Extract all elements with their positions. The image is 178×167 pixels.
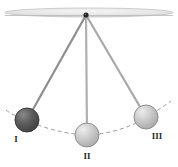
bob-II-label: II xyxy=(83,151,91,161)
string-position-I xyxy=(27,15,86,120)
bob-I xyxy=(15,108,39,132)
string-position-III xyxy=(86,15,146,117)
pivot-point xyxy=(83,12,88,17)
pendulum-figure: IIIIII xyxy=(0,0,178,167)
pendulum-diagram-canvas: IIIIII xyxy=(0,0,178,167)
bob-III xyxy=(134,105,158,129)
bob-I-label: I xyxy=(14,134,18,144)
pendulum-strings-group xyxy=(27,15,146,135)
pivot-point-highlight xyxy=(84,13,86,15)
string-position-II xyxy=(86,15,87,135)
bob-II xyxy=(75,123,99,147)
bob-III-label: III xyxy=(152,131,163,141)
